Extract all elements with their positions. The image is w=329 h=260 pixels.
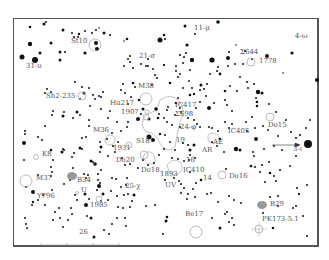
star xyxy=(305,127,307,129)
star xyxy=(224,213,226,215)
label: B29 xyxy=(270,201,284,208)
star xyxy=(228,195,230,197)
star xyxy=(59,59,62,62)
star xyxy=(50,166,52,168)
star xyxy=(158,113,160,115)
star xyxy=(194,196,196,198)
star xyxy=(71,156,73,158)
star xyxy=(109,110,111,112)
star xyxy=(171,124,173,126)
star xyxy=(254,166,256,168)
star xyxy=(213,102,215,104)
label: 24-φ xyxy=(180,124,196,131)
star xyxy=(116,217,118,219)
star xyxy=(166,121,168,123)
deep-sky-object-be17 xyxy=(190,226,202,238)
star xyxy=(264,181,266,183)
star xyxy=(209,57,214,62)
star xyxy=(193,119,195,121)
label: M38 xyxy=(138,83,154,90)
star xyxy=(269,172,272,175)
star xyxy=(107,155,109,157)
star xyxy=(178,180,180,182)
label: 11-μ xyxy=(194,25,210,32)
label: 19 xyxy=(176,137,185,144)
star xyxy=(196,123,198,125)
star xyxy=(74,81,76,83)
star xyxy=(164,38,166,40)
star xyxy=(164,134,166,136)
star xyxy=(185,43,188,46)
dark-nebula-b29 xyxy=(257,201,267,209)
star xyxy=(28,42,32,46)
star xyxy=(108,233,110,235)
star xyxy=(269,196,271,198)
star xyxy=(51,114,53,116)
star xyxy=(140,63,142,65)
label: S18 xyxy=(136,138,150,145)
star xyxy=(205,95,207,97)
star xyxy=(116,195,118,197)
star xyxy=(267,129,269,131)
label: 1778 xyxy=(259,58,277,65)
star xyxy=(52,159,54,161)
label: 14 xyxy=(203,175,212,182)
star xyxy=(102,193,105,196)
star xyxy=(295,205,297,207)
star xyxy=(281,149,283,151)
star xyxy=(179,54,181,56)
star xyxy=(103,229,105,231)
star xyxy=(129,61,131,63)
star xyxy=(180,192,182,194)
star xyxy=(142,108,145,111)
star xyxy=(24,133,26,135)
star xyxy=(126,177,128,179)
star xyxy=(83,51,86,54)
label: AR xyxy=(202,147,212,154)
label: M36 xyxy=(93,127,109,134)
star xyxy=(26,227,28,229)
star xyxy=(126,38,129,41)
star xyxy=(226,56,230,60)
star xyxy=(234,147,238,151)
star xyxy=(296,187,298,189)
star xyxy=(163,148,165,150)
star xyxy=(91,32,93,34)
label: 1985 xyxy=(90,202,108,209)
star xyxy=(86,215,88,217)
star xyxy=(123,65,125,67)
star xyxy=(122,83,124,85)
star xyxy=(166,216,169,219)
star xyxy=(167,106,169,108)
star xyxy=(54,211,56,213)
star xyxy=(67,219,69,221)
star xyxy=(83,173,85,175)
star xyxy=(228,51,230,53)
label: AE xyxy=(213,139,223,146)
star xyxy=(206,83,208,85)
star xyxy=(129,55,131,57)
star xyxy=(88,125,90,127)
star xyxy=(132,82,135,85)
star xyxy=(234,63,236,65)
label: 25-χ xyxy=(125,183,141,190)
star xyxy=(88,198,90,200)
star xyxy=(182,87,184,89)
star xyxy=(98,27,100,29)
label: 26 xyxy=(79,229,88,236)
star xyxy=(117,206,119,208)
star xyxy=(277,195,279,197)
deep-sky-object-u xyxy=(76,192,79,195)
star xyxy=(219,227,222,230)
star xyxy=(25,223,27,225)
star xyxy=(227,65,229,67)
star xyxy=(145,205,147,207)
star xyxy=(100,96,102,98)
star xyxy=(71,213,73,215)
star xyxy=(58,207,60,209)
star xyxy=(184,25,187,28)
star xyxy=(88,87,90,89)
star xyxy=(295,137,297,139)
star xyxy=(136,117,140,121)
star xyxy=(131,200,133,202)
